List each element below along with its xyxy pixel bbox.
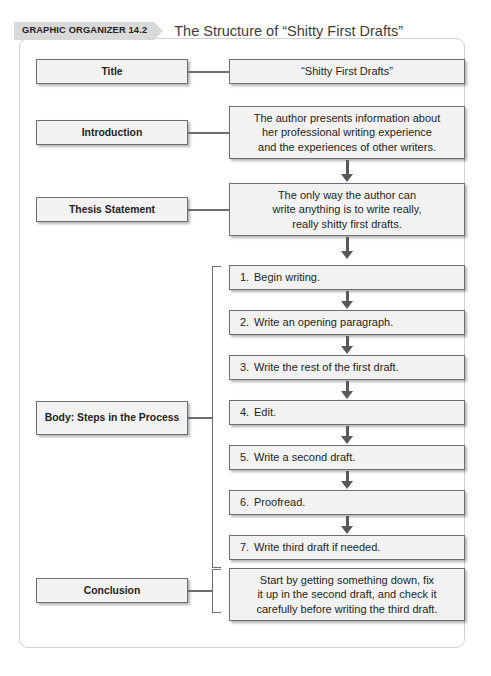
step-text-3: Write the rest of the first draft. bbox=[254, 360, 399, 375]
connector-introduction bbox=[188, 132, 229, 134]
step-box-2: 2. Write an opening paragraph. bbox=[229, 310, 465, 335]
content-box-thesis-statement: The only way the author can write anythi… bbox=[229, 183, 465, 236]
conclusion-line-2: it up in the second draft, and check it bbox=[257, 587, 436, 602]
step-text-2: Write an opening paragraph. bbox=[254, 315, 393, 330]
bracket-body-steps bbox=[212, 266, 221, 568]
label-box-body-steps: Body: Steps in the Process bbox=[36, 401, 188, 435]
step-number-1: 1. bbox=[240, 270, 254, 285]
arrow-step5-to-step6 bbox=[341, 471, 353, 489]
step-box-1: 1. Begin writing. bbox=[229, 265, 465, 290]
step-number-5: 5. bbox=[240, 450, 254, 465]
step-box-3: 3. Write the rest of the first draft. bbox=[229, 355, 465, 380]
conclusion-line-1: Start by getting something down, fix bbox=[260, 573, 434, 588]
organizer-header: GRAPHIC ORGANIZER 14.2 The Structure of … bbox=[14, 20, 403, 42]
label-box-thesis-statement: Thesis Statement bbox=[36, 197, 188, 222]
arrow-step6-to-step7 bbox=[341, 516, 353, 534]
arrow-intro-to-thesis bbox=[341, 160, 353, 182]
arrow-step2-to-step3 bbox=[341, 336, 353, 354]
arrow-step3-to-step4 bbox=[341, 381, 353, 399]
content-box-conclusion: Start by getting something down, fix it … bbox=[229, 568, 465, 621]
connector-title bbox=[188, 71, 229, 73]
thesis-line-3: really shitty first drafts. bbox=[292, 217, 401, 232]
arrow-step4-to-step5 bbox=[341, 426, 353, 444]
label-box-introduction: Introduction bbox=[36, 120, 188, 145]
step-box-7: 7. Write third draft if needed. bbox=[229, 535, 465, 560]
badge-label: GRAPHIC ORGANIZER 14.2 bbox=[22, 26, 147, 35]
arrow-thesis-to-step1 bbox=[341, 237, 353, 259]
step-text-6: Proofread. bbox=[254, 495, 305, 510]
connector-body bbox=[188, 417, 212, 419]
step-number-6: 6. bbox=[240, 495, 254, 510]
step-box-6: 6. Proofread. bbox=[229, 490, 465, 515]
label-box-conclusion: Conclusion bbox=[36, 578, 188, 603]
arrow-step1-to-step2 bbox=[341, 291, 353, 309]
content-box-title: “Shitty First Drafts” bbox=[229, 59, 465, 84]
graphic-organizer-badge: GRAPHIC ORGANIZER 14.2 bbox=[14, 22, 154, 40]
step-number-7: 7. bbox=[240, 540, 254, 555]
step-number-4: 4. bbox=[240, 405, 254, 420]
intro-line-3: and the experiences of other writers. bbox=[258, 140, 436, 155]
step-text-1: Begin writing. bbox=[254, 270, 320, 285]
connector-conclusion bbox=[188, 590, 212, 592]
content-box-introduction: The author presents information about he… bbox=[229, 106, 465, 159]
label-box-title: Title bbox=[36, 59, 188, 84]
step-text-5: Write a second draft. bbox=[254, 450, 355, 465]
step-box-5: 5. Write a second draft. bbox=[229, 445, 465, 470]
conclusion-line-3: carefully before writing the third draft… bbox=[257, 602, 438, 617]
badge-chevron-icon bbox=[154, 22, 163, 40]
intro-line-1: The author presents information about bbox=[254, 111, 441, 126]
step-box-4: 4. Edit. bbox=[229, 400, 465, 425]
step-number-3: 3. bbox=[240, 360, 254, 375]
connector-thesis bbox=[188, 209, 229, 211]
step-text-4: Edit. bbox=[254, 405, 276, 420]
step-text-7: Write third draft if needed. bbox=[254, 540, 380, 555]
thesis-line-2: write anything is to write really, bbox=[273, 202, 422, 217]
bracket-conclusion bbox=[212, 569, 221, 613]
intro-line-2: her professional writing experience bbox=[262, 125, 432, 140]
thesis-line-1: The only way the author can bbox=[278, 188, 416, 203]
page-title: The Structure of “Shitty First Drafts” bbox=[174, 24, 403, 39]
step-number-2: 2. bbox=[240, 315, 254, 330]
